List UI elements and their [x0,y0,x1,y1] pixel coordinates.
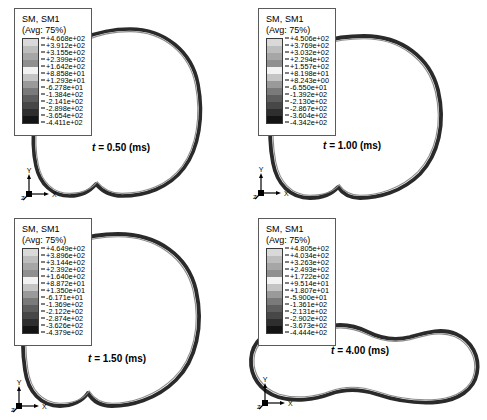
legend-swatch-6 [267,81,282,88]
legend-swatch-3 [23,60,38,67]
legend-swatch-5 [23,74,38,81]
legend-swatch-7 [267,298,282,305]
legend-swatch-7 [23,88,38,95]
svg-text:Y: Y [263,376,268,383]
legend-swatch-0 [267,249,282,256]
legend-swatch-8 [23,305,38,312]
legend-tick-list: +4.649e+02+3.896e+02+3.144e+02+2.392e+02… [41,248,85,339]
legend-swatch-1 [267,256,282,263]
legend-swatch-11 [267,116,282,123]
legend-swatch-10 [267,109,282,116]
time-symbol: t [92,142,95,153]
time-symbol: t [331,345,334,356]
legend-swatch-9 [23,312,38,319]
contour-legend-t-1-50: SM, SM1 (Avg: 75%) +4.649e+02+3.896e+02+… [14,218,92,346]
legend-swatch-3 [267,270,282,277]
legend-swatch-11 [23,116,38,123]
legend-swatch-4 [23,277,38,284]
svg-text:X: X [288,400,293,407]
legend-swatch-5 [23,284,38,291]
contour-legend-t-1-00: SM, SM1 (Avg: 75%) +4.506e+02+3.769e+02+… [258,8,336,136]
legend-swatch-4 [267,67,282,74]
legend-swatch-5 [267,74,282,81]
legend-tick-value: -4.444e+02 [285,329,329,336]
legend-swatch-8 [267,305,282,312]
legend-swatch-1 [23,46,38,53]
time-label-t-4-00: t = 4.00 (ms) [331,345,389,356]
contour-legend-t-0-50: SM, SM1 (Avg: 75%) +4.668e+02+3.912e+02+… [14,8,92,136]
legend-swatch-7 [267,88,282,95]
legend-swatch-8 [23,95,38,102]
legend-title: SM, SM1 [266,14,329,25]
legend-tick-value: -4.342e+02 [285,119,329,126]
legend-swatch-0 [23,249,38,256]
legend-colorbar [22,248,39,334]
svg-text:Z: Z [257,404,261,410]
axis-triad-t-1-00: Y X Z [252,165,292,201]
time-symbol: t [323,140,326,151]
legend-swatch-7 [23,298,38,305]
legend-swatch-6 [23,291,38,298]
legend-swatch-11 [267,326,282,333]
svg-text:Z: Z [253,194,257,200]
time-value: = 1.50 (ms) [94,353,146,364]
legend-tick-list: +4.668e+02+3.912e+02+3.155e+02+2.399e+02… [41,38,85,129]
legend-swatch-6 [267,291,282,298]
legend-swatch-2 [23,263,38,270]
time-label-t-1-00: t = 1.00 (ms) [323,140,381,151]
svg-text:Y: Y [17,379,22,386]
legend-swatch-10 [23,109,38,116]
contour-legend-t-4-00: SM, SM1 (Avg: 75%) +4.805e+02+4.034e+02+… [258,218,336,346]
axis-triad-t-4-00: Y X Z [254,373,298,413]
legend-swatch-3 [23,270,38,277]
svg-text:Y: Y [27,168,32,174]
legend-tick-value: -4.411e+02 [41,119,85,126]
svg-text:Y: Y [259,166,264,173]
time-label-t-1-50: t = 1.50 (ms) [88,353,146,364]
legend-swatch-2 [267,53,282,60]
axis-triad-t-0-50: Y X Z [20,168,60,202]
legend-swatch-10 [23,319,38,326]
legend-swatch-4 [267,277,282,284]
legend-colorbar [22,38,39,124]
time-value: = 1.00 (ms) [329,140,381,151]
legend-title: SM, SM1 [22,224,85,235]
legend-title: SM, SM1 [22,14,85,25]
legend-swatch-9 [23,102,38,109]
legend-swatch-9 [267,102,282,109]
contour-panel-t-4-00: SM, SM1 (Avg: 75%) +4.805e+02+4.034e+02+… [244,210,487,420]
time-value: = 4.00 (ms) [337,345,389,356]
legend-swatch-1 [267,46,282,53]
legend-swatch-2 [23,53,38,60]
legend-swatch-11 [23,326,38,333]
legend-title: SM, SM1 [266,224,329,235]
legend-swatch-10 [267,319,282,326]
legend-colorbar [266,248,283,334]
legend-swatch-1 [23,256,38,263]
svg-text:Z: Z [11,407,15,413]
svg-text:Z: Z [21,195,25,201]
svg-text:X: X [284,190,289,197]
legend-swatch-4 [23,67,38,74]
legend-tick-list: +4.805e+02+4.034e+02+3.263e+02+2.493e+02… [285,248,329,339]
contour-panel-t-1-50: SM, SM1 (Avg: 75%) +4.649e+02+3.896e+02+… [0,210,243,420]
legend-swatch-2 [267,263,282,270]
contour-panel-t-0-50: SM, SM1 (Avg: 75%) +4.668e+02+3.912e+02+… [0,0,243,210]
legend-swatch-0 [23,39,38,46]
svg-text:X: X [42,403,47,410]
time-label-t-0-50: t = 0.50 (ms) [92,142,150,153]
figure-canvas: SM, SM1 (Avg: 75%) +4.668e+02+3.912e+02+… [0,0,487,420]
contour-panel-t-1-00: SM, SM1 (Avg: 75%) +4.506e+02+3.769e+02+… [244,0,487,210]
svg-text:X: X [52,191,57,198]
time-value: = 0.50 (ms) [98,142,150,153]
axis-triad-t-1-50: Y X Z [10,378,50,414]
legend-swatch-9 [267,312,282,319]
legend-swatch-5 [267,284,282,291]
legend-tick-list: +4.506e+02+3.769e+02+3.032e+02+2.294e+02… [285,38,329,129]
legend-swatch-0 [267,39,282,46]
legend-colorbar [266,38,283,124]
time-symbol: t [88,353,91,364]
legend-tick-value: -4.379e+02 [41,329,85,336]
legend-swatch-8 [267,95,282,102]
legend-swatch-6 [23,81,38,88]
